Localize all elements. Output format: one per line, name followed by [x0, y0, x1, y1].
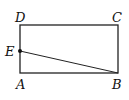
label-e: E: [4, 44, 15, 59]
point-e-dot: [18, 49, 22, 53]
label-c: C: [112, 10, 122, 25]
label-a: A: [15, 77, 25, 92]
segment-eb: [20, 51, 118, 73]
geometry-diagram: D C E A B: [0, 0, 129, 100]
label-b: B: [111, 77, 122, 92]
label-d: D: [14, 10, 26, 25]
rectangle-abcd: [20, 25, 118, 73]
